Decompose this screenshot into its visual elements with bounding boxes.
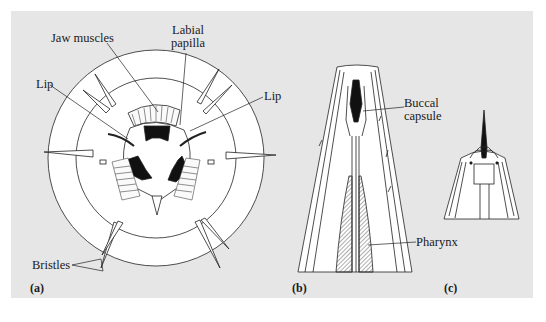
label-labial-papilla: Labial papilla [168, 24, 208, 50]
label-lip-left: Lip [36, 78, 53, 91]
label-labial-papilla-line2: papilla [168, 37, 208, 50]
label-buccal-capsule-line2: capsule [404, 110, 441, 123]
label-pharynx: Pharynx [416, 236, 458, 249]
panel-letter-b: (b) [292, 282, 307, 295]
panel-c-stylet-head [444, 110, 519, 219]
label-jaw-muscles: Jaw muscles [51, 32, 114, 45]
label-lip-right: Lip [264, 90, 281, 103]
label-bristles: Bristles [32, 259, 70, 272]
panel-a-en-face-head [44, 43, 276, 271]
panel-letter-a: (a) [30, 282, 44, 295]
diagram-drawing [0, 0, 546, 322]
panel-letter-c: (c) [444, 282, 457, 295]
label-buccal-capsule: Buccal capsule [404, 97, 441, 123]
panel-b-longitudinal-section [298, 65, 416, 272]
